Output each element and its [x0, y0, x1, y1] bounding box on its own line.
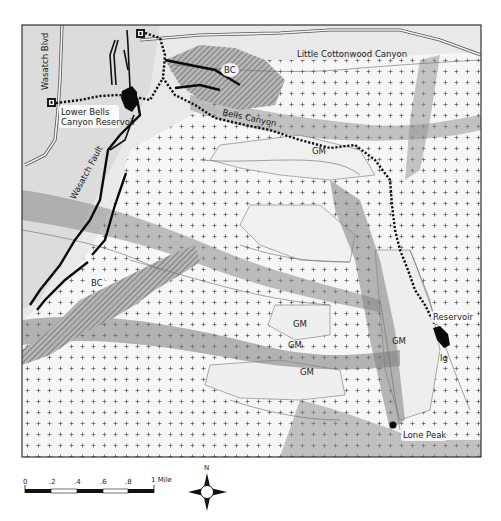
scale-tick-0.4: .4 — [74, 478, 81, 486]
scale-tick-1-mile: 1 Mile — [151, 476, 172, 484]
label-gm-1: GM — [312, 146, 326, 156]
label-gm-2: GM — [293, 319, 307, 329]
label-reservoir: Reservoir — [433, 312, 473, 322]
trailhead-icon[interactable] — [136, 29, 145, 38]
scale-tick-0.8: .8 — [125, 478, 132, 486]
label-lower-reservoir-1: Lower Bells — [61, 107, 110, 117]
geologic-map: Wasatch Blvd Lower Bells Canyon Reservoi… — [0, 0, 501, 521]
label-gm-3: GM — [288, 340, 302, 350]
north-label: N — [204, 464, 209, 472]
scale-tick-0.6: .6 — [100, 478, 107, 486]
trailhead-icon[interactable] — [47, 98, 56, 107]
label-lone-peak: Lone Peak — [403, 430, 446, 440]
label-little-cottonwood: Little Cottonwood Canyon — [297, 49, 407, 59]
scale-tick-0: 0 — [23, 478, 27, 486]
scale-tick-0.2: .2 — [49, 478, 56, 486]
label-gm-5: GM — [300, 367, 314, 377]
lone-peak-marker — [390, 422, 397, 429]
label-lower-reservoir-2: Canyon Reservoir — [61, 117, 136, 127]
label-ig: Ig — [440, 353, 448, 363]
label-bc-south: BC — [91, 278, 103, 288]
north-arrow-icon: N — [188, 464, 227, 511]
terrain-layer — [22, 25, 481, 457]
label-wasatch-blvd: Wasatch Blvd — [40, 33, 50, 90]
label-bc-north: BC — [224, 65, 236, 75]
scale-bar: 0 .2 .4 .6 .8 1 Mile — [23, 476, 172, 493]
label-gm-4: GM — [392, 336, 406, 346]
